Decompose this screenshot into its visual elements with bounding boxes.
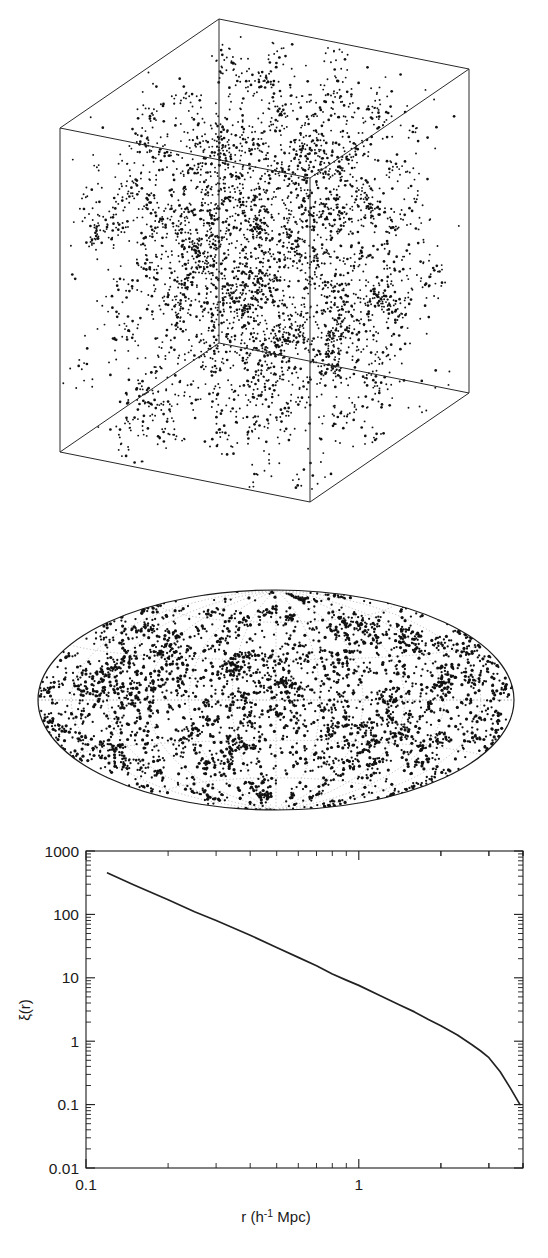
y-axis-label: ξ(r) (16, 999, 33, 1021)
simulation-cube-panel (0, 0, 548, 570)
x-tick-label: 1 (354, 1176, 363, 1193)
correlation-curve (108, 873, 520, 1105)
x-axis-label-exponent: -1 (264, 1207, 273, 1219)
y-tick-label: 0.1 (57, 1096, 79, 1113)
simulation-cube-figure (0, 0, 548, 570)
all-sky-projection-figure (0, 570, 548, 830)
correlation-function-chart: 10001001010.10.01 0.11 r (h-1 Mpc) ξ(r) (0, 830, 548, 1258)
y-axis-tick-labels: 10001001010.10.01 (45, 843, 80, 1177)
y-axis-ticks (86, 851, 523, 1168)
y-tick-label: 1000 (45, 843, 80, 860)
y-tick-label: 0.01 (49, 1160, 79, 1177)
x-axis-label-main: r (h (241, 1208, 264, 1225)
correlation-function-panel: 10001001010.10.01 0.11 r (h-1 Mpc) ξ(r) (0, 830, 548, 1258)
y-tick-label: 100 (53, 906, 79, 923)
x-tick-label: 0.1 (75, 1176, 97, 1193)
y-tick-label: 1 (70, 1033, 79, 1050)
x-axis-tick-labels: 0.11 (75, 1176, 363, 1193)
x-axis-ticks (86, 851, 523, 1168)
x-axis-label-tail: Mpc) (273, 1208, 311, 1225)
plot-frame (86, 851, 523, 1168)
x-axis-label: r (h-1 Mpc) (241, 1207, 310, 1225)
galaxy-point-cloud (62, 36, 459, 490)
all-sky-projection-panel (0, 570, 548, 830)
cube-wireframe (60, 19, 469, 502)
y-tick-label: 10 (62, 969, 80, 986)
